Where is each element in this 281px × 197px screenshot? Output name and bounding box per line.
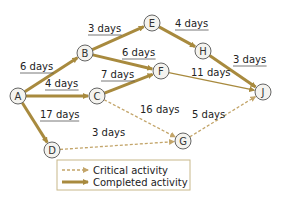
edge-label-c-g: 16 days	[140, 104, 180, 115]
edge-label-e-h: 4 days	[175, 18, 208, 29]
edge-label-f-j: 11 days	[191, 67, 231, 78]
edge-label-a-d: 17 days	[40, 109, 80, 120]
activity-network-diagram: 6 days4 days17 days3 days6 days7 days4 d…	[0, 0, 281, 197]
edge-label-d-g: 3 days	[92, 127, 125, 138]
legend-critical-label: Critical activity	[93, 165, 168, 176]
edge-label-c-f: 7 days	[101, 69, 134, 80]
node-h: H	[195, 43, 211, 59]
legend: Critical activity Completed activity	[57, 160, 190, 190]
node-label: B	[82, 48, 89, 59]
node-label: C	[94, 91, 101, 102]
edge-label-h-j: 3 days	[233, 54, 266, 65]
edge-d-g	[60, 142, 174, 150]
node-label: H	[199, 46, 207, 57]
node-f: F	[153, 63, 169, 79]
node-d: D	[44, 142, 60, 158]
node-label: F	[158, 66, 164, 77]
node-g: G	[175, 133, 191, 149]
edge-label-g-j: 5 days	[192, 109, 225, 120]
node-label: E	[149, 18, 155, 29]
edge-label-b-e: 3 days	[88, 23, 121, 34]
edge-label-b-f: 6 days	[122, 47, 155, 58]
node-label: G	[179, 136, 187, 147]
edge-label-a-b: 6 days	[20, 61, 53, 72]
edge-label-a-c: 4 days	[45, 78, 78, 89]
node-j: J	[255, 84, 271, 100]
node-label: D	[48, 145, 56, 156]
node-label: A	[15, 91, 22, 102]
node-b: B	[77, 45, 93, 61]
legend-completed-label: Completed activity	[93, 177, 188, 188]
node-e: E	[144, 15, 160, 31]
node-a: A	[10, 88, 26, 104]
node-c: C	[89, 88, 105, 104]
node-label: J	[261, 87, 265, 98]
